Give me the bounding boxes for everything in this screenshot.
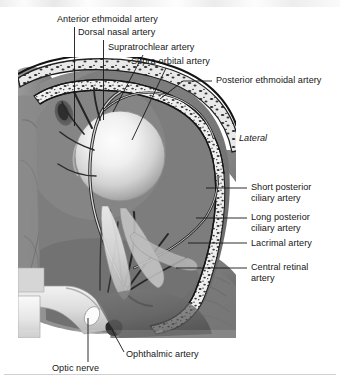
- label-supratrochlear-artery: Supratrochlear artery: [108, 42, 194, 53]
- label-ophthalmic-artery: Ophthalmic artery: [126, 349, 199, 360]
- label-posterior-ethmoidal-artery: Posterior ethmoidal artery: [216, 75, 321, 86]
- label-lacrimal-artery: Lacrimal artery: [251, 238, 312, 249]
- label-optic-nerve: Optic nerve: [52, 363, 99, 374]
- label-supra-orbital-artery: Supra-orbital artery: [131, 56, 210, 67]
- label-short-posterior-ciliary-artery-line2: ciliary artery: [251, 193, 301, 204]
- label-short-posterior-ciliary-artery-line1: Short posterior: [251, 182, 311, 193]
- label-anterior-ethmoidal-artery: Anterior ethmoidal artery: [57, 14, 158, 25]
- label-long-posterior-ciliary-artery-line1: Long posterior: [251, 212, 310, 223]
- label-dorsal-nasal-artery: Dorsal nasal artery: [78, 27, 155, 38]
- label-central-retinal-artery-line1: Central retinal: [251, 262, 308, 273]
- illustration-plate: [16, 55, 249, 340]
- anatomical-figure: Anterior ethmoidal artery Dorsal nasal a…: [0, 0, 340, 381]
- label-central-retinal-artery-line2: artery: [251, 273, 275, 284]
- label-lateral-orientation: Lateral: [239, 133, 267, 144]
- page-bottom-rule: [4, 374, 336, 375]
- label-long-posterior-ciliary-artery-line2: ciliary artery: [251, 223, 301, 234]
